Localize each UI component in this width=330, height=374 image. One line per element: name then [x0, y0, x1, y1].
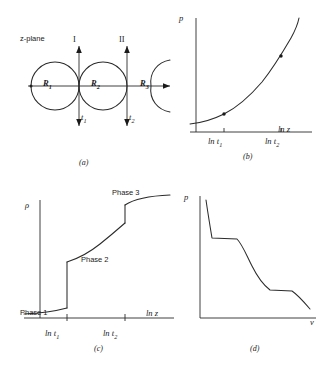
panel-d-p-vs-v-chart — [192, 192, 320, 332]
tangent-label-1: t1 — [81, 112, 86, 124]
phase-3-label: Phase 3 — [112, 188, 140, 197]
contour-label-I: I — [73, 34, 76, 44]
panel-b-x-axis-label: ln z — [278, 124, 290, 134]
region-label-3: R3 — [140, 78, 149, 90]
panel-b-svg — [186, 14, 320, 144]
panel-c-y-axis-label: ρ — [25, 200, 29, 210]
phase-1-label: Phase 1 — [20, 308, 48, 317]
panel-b-marker-2 — [279, 54, 282, 57]
panel-d-caption: (d) — [250, 344, 259, 353]
panel-d-isotherm-curve — [206, 200, 310, 309]
panel-c-x-axis-label: ln z — [146, 308, 158, 318]
panel-b-y-axis-label: p — [179, 13, 183, 23]
panel-b-marker-1 — [222, 112, 225, 115]
panel-b-p-vs-lnz-chart — [186, 14, 320, 144]
contour-label-II: II — [119, 34, 125, 44]
panel-d-svg — [192, 192, 320, 332]
panel-b-xtick-label-2: ln t2 — [265, 136, 279, 148]
region-label-1: R1 — [43, 78, 52, 90]
panel-b-xtick-label-1: ln t1 — [208, 136, 222, 148]
panel-c-caption: (c) — [94, 344, 103, 353]
panel-b-curve — [190, 18, 299, 124]
panel-a-caption: (a) — [79, 158, 88, 167]
panel-b-caption: (b) — [243, 152, 252, 161]
tangent-label-2: t2 — [129, 112, 134, 124]
panel-c-xtick-label-1: ln t1 — [45, 328, 59, 340]
region-label-2: R2 — [91, 78, 100, 90]
phase-2-label: Phase 2 — [81, 255, 109, 264]
figure-root: z-plane R1 R2 R3 I II t1 t2 (a) p ln z l… — [0, 0, 330, 374]
z-plane-label: z-plane — [20, 34, 45, 43]
panel-c-xtick-label-2: ln t2 — [103, 328, 117, 340]
panel-d-y-axis-label: p — [184, 192, 188, 202]
panel-d-x-axis-label: v — [310, 317, 314, 327]
